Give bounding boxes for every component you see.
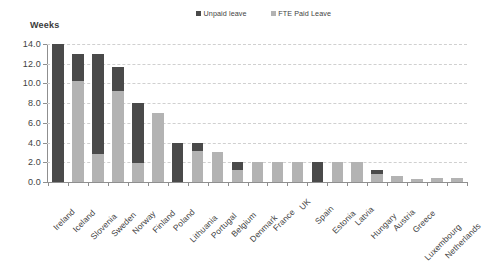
bar-slot xyxy=(128,44,148,182)
legend-label-fte-paid-leave: FTE Paid Leave xyxy=(278,9,331,18)
bar-segment-unpaid-leave[interactable] xyxy=(132,103,144,163)
x-axis-tick-label: Poland xyxy=(171,207,197,233)
bar-stack[interactable] xyxy=(292,162,304,182)
legend-item-fte-paid-leave[interactable]: FTE Paid Leave xyxy=(271,9,331,18)
bar-stack[interactable] xyxy=(152,113,164,182)
y-axis-tick xyxy=(43,44,47,45)
y-axis-tick xyxy=(43,103,47,104)
bar-segment-unpaid-leave[interactable] xyxy=(112,67,124,92)
y-axis-tick-label: 2.0 xyxy=(28,157,41,167)
bar-stack[interactable] xyxy=(272,162,284,182)
bar-slot xyxy=(387,44,407,182)
y-axis-title: Weeks xyxy=(30,20,59,30)
bar-stack[interactable] xyxy=(132,103,144,182)
bar-slot xyxy=(68,44,88,182)
bar-segment-unpaid-leave[interactable] xyxy=(72,54,84,82)
y-axis-tick xyxy=(43,64,47,65)
y-axis-tick xyxy=(43,162,47,163)
bar-segment-fte-paid-leave[interactable] xyxy=(112,91,124,182)
bar-segment-fte-paid-leave[interactable] xyxy=(92,154,104,182)
y-axis-tick xyxy=(43,123,47,124)
bar-segment-fte-paid-leave[interactable] xyxy=(351,162,363,182)
y-axis-tick-label: 14.0 xyxy=(23,39,41,49)
bars-group xyxy=(48,44,467,182)
bar-stack[interactable] xyxy=(312,162,324,182)
bar-slot xyxy=(427,44,447,182)
bar-slot xyxy=(148,44,168,182)
bar-segment-fte-paid-leave[interactable] xyxy=(272,162,284,182)
x-axis-labels-group: IrelandIcelandSloveniaSwedenNorwayFinlan… xyxy=(48,186,468,256)
bar-segment-fte-paid-leave[interactable] xyxy=(212,152,224,182)
chart-legend: Unpaid leave FTE Paid Leave xyxy=(196,9,331,18)
bar-slot xyxy=(407,44,427,182)
legend-swatch-unpaid-leave xyxy=(196,11,201,16)
bar-slot xyxy=(327,44,347,182)
bar-stack[interactable] xyxy=(192,143,204,182)
bar-segment-fte-paid-leave[interactable] xyxy=(292,162,304,182)
y-axis-tick-label: 0.0 xyxy=(28,177,41,187)
bar-segment-unpaid-leave[interactable] xyxy=(312,162,324,182)
y-axis-tick xyxy=(43,143,47,144)
bar-slot xyxy=(287,44,307,182)
bar-slot xyxy=(367,44,387,182)
bar-segment-fte-paid-leave[interactable] xyxy=(371,174,383,182)
bar-slot xyxy=(208,44,228,182)
bar-stack[interactable] xyxy=(252,162,264,182)
bar-slot xyxy=(267,44,287,182)
bar-segment-fte-paid-leave[interactable] xyxy=(451,178,463,182)
bar-segment-unpaid-leave[interactable] xyxy=(172,143,184,182)
bar-slot xyxy=(248,44,268,182)
bar-stack[interactable] xyxy=(232,162,244,182)
bar-segment-fte-paid-leave[interactable] xyxy=(152,113,164,182)
bar-slot xyxy=(307,44,327,182)
y-axis-tick xyxy=(43,83,47,84)
bar-slot xyxy=(228,44,248,182)
bar-stack[interactable] xyxy=(112,67,124,182)
gridline xyxy=(47,182,467,184)
y-axis-tick-label: 6.0 xyxy=(28,118,41,128)
legend-item-unpaid-leave[interactable]: Unpaid leave xyxy=(196,9,247,18)
bar-stack[interactable] xyxy=(212,152,224,182)
bar-stack[interactable] xyxy=(332,162,344,182)
y-axis-tick-label: 10.0 xyxy=(23,78,41,88)
bar-slot xyxy=(48,44,68,182)
bar-segment-fte-paid-leave[interactable] xyxy=(132,163,144,182)
legend-label-unpaid-leave: Unpaid leave xyxy=(204,9,247,18)
bar-segment-fte-paid-leave[interactable] xyxy=(411,179,423,182)
bar-stack[interactable] xyxy=(451,178,463,182)
y-axis-tick-label: 8.0 xyxy=(28,98,41,108)
bar-segment-unpaid-leave[interactable] xyxy=(232,162,244,170)
bar-segment-fte-paid-leave[interactable] xyxy=(192,151,204,182)
plot-area: 14.012.010.08.06.04.02.00.0 xyxy=(47,44,467,182)
bar-stack[interactable] xyxy=(351,162,363,182)
bar-segment-fte-paid-leave[interactable] xyxy=(252,162,264,182)
bar-stack[interactable] xyxy=(431,178,443,182)
bar-stack[interactable] xyxy=(72,54,84,182)
bar-stack[interactable] xyxy=(371,170,383,182)
bar-slot xyxy=(88,44,108,182)
x-axis-tick-label: Spain xyxy=(313,204,336,227)
bar-slot xyxy=(347,44,367,182)
legend-swatch-fte-paid-leave xyxy=(271,11,276,16)
bar-slot xyxy=(108,44,128,182)
bar-stack[interactable] xyxy=(92,54,104,182)
bar-segment-fte-paid-leave[interactable] xyxy=(72,81,84,182)
bar-segment-fte-paid-leave[interactable] xyxy=(391,176,403,182)
bar-segment-unpaid-leave[interactable] xyxy=(92,54,104,155)
bar-stack[interactable] xyxy=(172,143,184,182)
y-axis-tick xyxy=(43,182,47,183)
bar-stack[interactable] xyxy=(391,176,403,182)
bar-segment-fte-paid-leave[interactable] xyxy=(431,178,443,182)
bar-segment-unpaid-leave[interactable] xyxy=(52,44,64,182)
y-axis-tick-label: 4.0 xyxy=(28,138,41,148)
x-axis-tick-label: Latvia xyxy=(352,204,375,227)
x-axis-tick-label: UK xyxy=(297,196,312,211)
bar-slot xyxy=(188,44,208,182)
bar-segment-fte-paid-leave[interactable] xyxy=(232,170,244,182)
y-axis-tick-label: 12.0 xyxy=(23,59,41,69)
bar-segment-fte-paid-leave[interactable] xyxy=(332,162,344,182)
bar-segment-unpaid-leave[interactable] xyxy=(192,143,204,152)
bar-stack[interactable] xyxy=(411,179,423,182)
bar-stack[interactable] xyxy=(52,44,64,182)
